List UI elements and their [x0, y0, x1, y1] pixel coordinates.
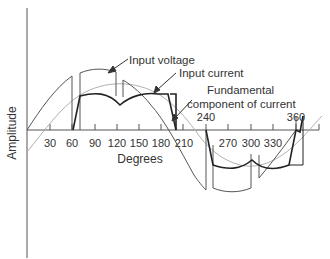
- label-fundamental-line2: component of current: [187, 98, 296, 110]
- svg-text:360: 360: [287, 111, 305, 123]
- x-axis-title: Degrees: [117, 152, 162, 166]
- waveform-diagram: Input voltage Input current Fundamental …: [0, 0, 330, 259]
- svg-text:300: 300: [242, 137, 260, 149]
- x-tick-labels-offset: 240 360: [197, 111, 305, 123]
- svg-text:30: 30: [44, 137, 56, 149]
- x-axis-ticks: [50, 124, 319, 130]
- svg-text:210: 210: [175, 137, 193, 149]
- svg-text:150: 150: [130, 137, 148, 149]
- svg-text:90: 90: [89, 137, 101, 149]
- label-input-current: Input current: [179, 67, 244, 79]
- svg-text:270: 270: [219, 137, 237, 149]
- svg-text:180: 180: [152, 137, 170, 149]
- x-tick-labels: 30 60 90 120 150 180 210 270 300 330: [44, 137, 282, 149]
- svg-text:240: 240: [197, 111, 215, 123]
- y-axis-title: Amplitude: [5, 106, 19, 160]
- label-fundamental-line1: Fundamental: [207, 84, 274, 96]
- svg-text:330: 330: [264, 137, 282, 149]
- svg-text:60: 60: [66, 137, 78, 149]
- svg-text:120: 120: [108, 137, 126, 149]
- label-input-voltage: Input voltage: [129, 54, 195, 66]
